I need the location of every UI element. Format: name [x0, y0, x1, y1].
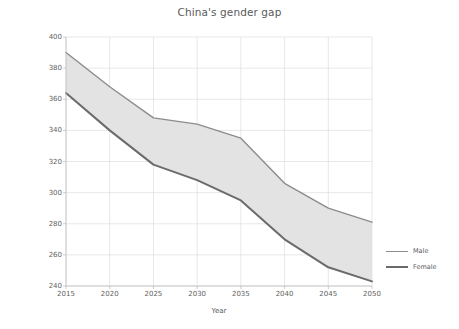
chart-legend: MaleFemale	[386, 243, 456, 275]
legend-label: Female	[413, 263, 437, 271]
gender-gap-fill-area	[66, 53, 372, 282]
legend-item[interactable]: Female	[386, 259, 456, 275]
legend-line-swatch	[386, 251, 408, 252]
legend-line-swatch	[386, 266, 408, 268]
chart-figure: China's gender gap Population 15-49 in m…	[0, 0, 459, 329]
legend-label: Male	[413, 247, 428, 255]
legend-item[interactable]: Male	[386, 243, 456, 259]
plot-canvas	[0, 0, 459, 329]
